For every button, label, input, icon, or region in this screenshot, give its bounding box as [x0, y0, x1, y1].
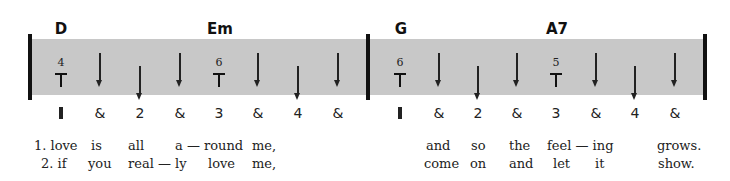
- lyric-verse-2: 2. if: [41, 156, 67, 172]
- down-strum-arrow-icon: [136, 66, 144, 100]
- lyric-verse-1: so: [471, 138, 486, 154]
- arrow-shaft: [477, 66, 479, 94]
- beat-count: 2: [474, 104, 483, 122]
- barline-end: [703, 34, 707, 100]
- chord-label: Em: [207, 20, 233, 38]
- down-strum-arrow-icon: [474, 66, 482, 100]
- lyric-verse-1: feel — ing: [547, 138, 613, 154]
- barline-middle: [366, 34, 370, 100]
- down-strum-arrow-icon: [631, 66, 639, 100]
- lyric-verse-2: real — ly: [128, 156, 187, 172]
- thumb-bass-marker: 6: [392, 57, 408, 87]
- lyric-verse-1: all: [128, 138, 144, 154]
- lyric-verse-2: you: [88, 156, 112, 172]
- arrow-shaft: [674, 53, 676, 81]
- thumb-t-icon: [53, 73, 69, 87]
- lyric-verse-2: come: [424, 156, 459, 172]
- beat-one-glyph: [59, 107, 63, 119]
- barline-start: [28, 34, 32, 100]
- string-number: 4: [53, 57, 69, 69]
- lyric-verse-1: grows.: [657, 138, 701, 154]
- lyric-verse-2: let: [553, 156, 570, 172]
- chord-label: A7: [546, 20, 568, 38]
- beat-count: &: [95, 104, 106, 122]
- beat-count: &: [253, 104, 264, 122]
- beat-count: &: [175, 104, 186, 122]
- lyric-verse-2: and: [509, 156, 533, 172]
- arrow-shaft: [297, 66, 299, 94]
- down-strum-arrow-icon: [254, 53, 262, 87]
- down-strum-arrow-icon: [96, 53, 104, 87]
- beat-count: &: [591, 104, 602, 122]
- lyric-verse-1: is: [91, 138, 102, 154]
- beat-count: 2: [136, 104, 145, 122]
- lyric-verse-2: show.: [658, 156, 695, 172]
- beat-one-glyph: [398, 107, 402, 119]
- arrow-head: [254, 80, 260, 87]
- arrow-head: [176, 80, 182, 87]
- arrow-head: [96, 80, 102, 87]
- arrow-head: [671, 80, 677, 87]
- arrow-shaft: [337, 53, 339, 81]
- thumb-bass-marker: 6: [211, 57, 227, 87]
- arrow-head: [334, 80, 340, 87]
- down-strum-arrow-icon: [334, 53, 342, 87]
- arrow-head: [294, 93, 300, 100]
- thumb-t-icon: [211, 73, 227, 87]
- thumb-bass-marker: 5: [548, 57, 564, 87]
- lyric-verse-1: me,: [252, 138, 276, 154]
- beat-count: &: [434, 104, 445, 122]
- arrow-shaft: [257, 53, 259, 81]
- down-strum-arrow-icon: [176, 53, 184, 87]
- arrow-head: [513, 80, 519, 87]
- down-strum-arrow-icon: [294, 66, 302, 100]
- string-number: 6: [211, 57, 227, 69]
- beat-count: [398, 104, 402, 122]
- thumb-t-icon: [548, 73, 564, 87]
- arrow-shaft: [595, 53, 597, 81]
- lyric-verse-1: 1. love: [34, 138, 78, 154]
- arrow-shaft: [634, 66, 636, 94]
- beat-count: 3: [215, 104, 224, 122]
- chord-label: G: [395, 20, 407, 38]
- down-strum-arrow-icon: [671, 53, 679, 87]
- arrow-shaft: [516, 53, 518, 81]
- arrow-head: [435, 80, 441, 87]
- down-strum-arrow-icon: [592, 53, 600, 87]
- beat-count: 3: [552, 104, 561, 122]
- beat-count: &: [333, 104, 344, 122]
- beat-count: &: [512, 104, 523, 122]
- down-strum-arrow-icon: [513, 53, 521, 87]
- string-number: 5: [548, 57, 564, 69]
- lyric-verse-2: love: [208, 156, 235, 172]
- lyric-verse-2: me,: [252, 156, 276, 172]
- beat-count: &: [670, 104, 681, 122]
- lyric-verse-2: on: [470, 156, 486, 172]
- arrow-shaft: [179, 53, 181, 81]
- string-number: 6: [392, 57, 408, 69]
- arrow-shaft: [139, 66, 141, 94]
- down-strum-arrow-icon: [435, 53, 443, 87]
- arrow-shaft: [99, 53, 101, 81]
- beat-count: 4: [294, 104, 303, 122]
- lyric-verse-2: it: [595, 156, 604, 172]
- arrow-head: [474, 93, 480, 100]
- arrow-shaft: [438, 53, 440, 81]
- lyric-verse-1: the: [509, 138, 530, 154]
- lyric-verse-1: a — round: [175, 138, 243, 154]
- chord-label: D: [55, 20, 67, 38]
- arrow-head: [631, 93, 637, 100]
- arrow-head: [136, 93, 142, 100]
- arrow-head: [592, 80, 598, 87]
- beat-count: [59, 104, 63, 122]
- beat-count: 4: [631, 104, 640, 122]
- lyric-verse-1: and: [426, 138, 450, 154]
- thumb-bass-marker: 4: [53, 57, 69, 87]
- thumb-t-icon: [392, 73, 408, 87]
